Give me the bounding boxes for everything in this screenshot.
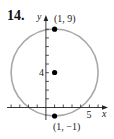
point-top-label: (1, 9) — [54, 13, 76, 25]
y-tick-label-4: 4 — [39, 67, 44, 78]
y-axis-label: y — [36, 11, 42, 22]
y-axis-arrow-icon — [44, 15, 49, 21]
point-top — [52, 27, 57, 32]
point-center — [52, 70, 57, 75]
point-bottom — [52, 113, 57, 118]
circle-graph: y x 4 5 (1, 9) (1, −1) — [0, 0, 114, 139]
point-bottom-label: (1, −1) — [53, 121, 80, 133]
x-tick-label-5: 5 — [87, 109, 92, 120]
x-axis-label: x — [101, 108, 107, 119]
